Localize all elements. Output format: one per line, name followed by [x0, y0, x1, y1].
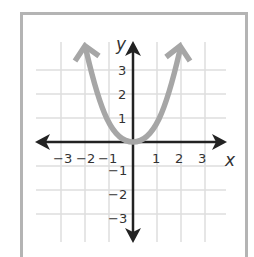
- x-axis-label: x: [224, 150, 236, 170]
- x-tick-neg3: −3: [53, 151, 72, 166]
- y-tick-3: 3: [118, 63, 126, 78]
- y-tick-labels: 3 2 1 −1 −2 −3: [108, 63, 127, 226]
- x-tick-neg2: −2: [76, 151, 95, 166]
- x-tick-1: 1: [152, 151, 160, 166]
- y-tick-neg1: −1: [108, 163, 127, 178]
- y-tick-2: 2: [118, 87, 126, 102]
- y-tick-1: 1: [118, 111, 126, 126]
- x-tick-3: 3: [198, 151, 206, 166]
- y-axis-label: y: [115, 34, 127, 54]
- y-tick-neg3: −3: [108, 211, 127, 226]
- x-tick-2: 2: [175, 151, 183, 166]
- y-tick-neg2: −2: [108, 187, 127, 202]
